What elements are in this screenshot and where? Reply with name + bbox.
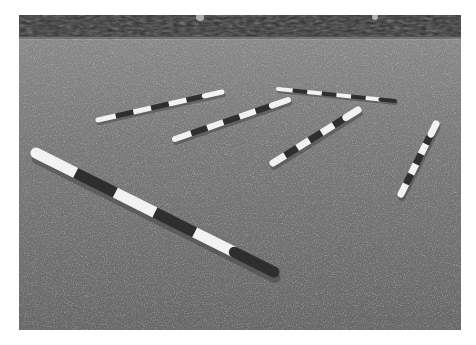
photo-canvas (19, 15, 461, 330)
field-photo (19, 15, 461, 330)
